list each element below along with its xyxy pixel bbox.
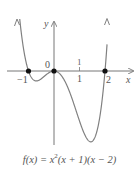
zero-point-neg1 xyxy=(26,68,31,73)
tick-label-neg1: −1 xyxy=(17,74,28,85)
function-graph: y x −1 0 1 1 2 xyxy=(0,0,139,175)
curve-arrow-left-icon xyxy=(15,19,20,26)
caption-suffix: (x + 1)(x − 2) xyxy=(58,154,116,165)
tick-label-1: 1 xyxy=(77,73,82,84)
tick-label-2: 2 xyxy=(106,74,111,85)
x-axis-label: x xyxy=(125,74,131,85)
curve-arrow-right-icon xyxy=(105,19,110,26)
function-curve xyxy=(20,19,107,142)
tick-label-0: 0 xyxy=(45,59,50,70)
function-caption: f(x) = x2(x + 1)(x − 2) xyxy=(0,152,139,165)
zero-point-0 xyxy=(51,68,56,73)
y-axis-label: y xyxy=(43,18,49,29)
tick-label-1-above: 1 xyxy=(77,57,82,67)
zero-point-2 xyxy=(102,68,107,73)
caption-prefix: f(x) = x xyxy=(23,154,55,165)
